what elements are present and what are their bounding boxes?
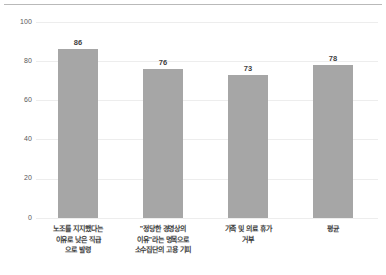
bar-category-2[interactable] bbox=[143, 69, 183, 218]
bar-category-3[interactable] bbox=[228, 75, 268, 218]
plot-area bbox=[36, 22, 378, 218]
y-tick-label-40: 40 bbox=[6, 135, 32, 143]
x-category-label-4: 평균 bbox=[285, 224, 381, 235]
top-divider bbox=[4, 4, 382, 5]
bar-value-label-1: 86 bbox=[53, 38, 103, 47]
y-tick-label-60: 60 bbox=[6, 96, 32, 104]
y-tick-label-80: 80 bbox=[6, 57, 32, 65]
y-tick-label-20: 20 bbox=[6, 174, 32, 182]
gridline-100 bbox=[36, 22, 378, 23]
gridline-0 bbox=[36, 218, 378, 219]
bar-category-4[interactable] bbox=[313, 65, 353, 218]
x-category-label-2: "정당한 경영상의 이유"라는 명목으로 소수집단의 고용 기피 bbox=[115, 224, 211, 256]
bar-category-1[interactable] bbox=[58, 49, 98, 218]
bar-chart-figure: 100 80 60 40 20 0 86 76 73 78 노조를 지지했다는 … bbox=[0, 0, 386, 275]
y-tick-label-0: 0 bbox=[6, 214, 32, 222]
y-axis: 100 80 60 40 20 0 bbox=[0, 0, 32, 275]
x-category-label-3: 가족 및 의료 휴가 거부 bbox=[200, 224, 296, 245]
bar-value-label-3: 73 bbox=[223, 64, 273, 73]
y-tick-label-100: 100 bbox=[6, 18, 32, 26]
x-category-label-1: 노조를 지지했다는 이유로 낮은 직급 으로 발령 bbox=[30, 224, 126, 256]
bar-value-label-4: 78 bbox=[308, 54, 358, 63]
bar-value-label-2: 76 bbox=[138, 58, 188, 67]
